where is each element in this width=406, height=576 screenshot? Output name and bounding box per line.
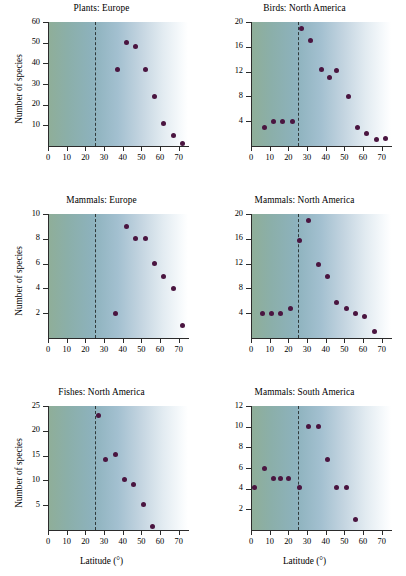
x-tick (141, 339, 142, 343)
data-point (319, 67, 324, 72)
y-tick (246, 468, 251, 469)
data-point (133, 236, 138, 241)
data-point (103, 457, 108, 462)
y-tick-label: 16 (219, 233, 243, 242)
x-tick (85, 147, 86, 151)
y-tick (43, 313, 48, 314)
x-tick (307, 147, 308, 151)
data-point (115, 67, 120, 72)
data-point (161, 274, 166, 279)
x-axis-line (48, 530, 189, 531)
data-point (124, 40, 129, 45)
y-tick (43, 239, 48, 240)
y-axis-line (251, 214, 252, 339)
data-point (327, 75, 332, 80)
x-tick (104, 339, 105, 343)
y-axis-line (48, 22, 49, 147)
chart-title: Mammals: South America (203, 387, 406, 397)
data-point (131, 482, 136, 487)
x-tick-label: 70 (168, 345, 190, 354)
y-tick-label: 2 (219, 504, 243, 513)
y-tick-label: 20 (219, 17, 243, 26)
x-tick (160, 147, 161, 151)
x-tick-label: 70 (168, 537, 190, 546)
y-tick (246, 489, 251, 490)
y-tick (246, 22, 251, 23)
x-tick (48, 147, 49, 151)
y-tick (246, 121, 251, 122)
data-point (364, 131, 369, 136)
data-point (334, 68, 339, 73)
x-axis-line (251, 146, 392, 147)
data-point (344, 306, 349, 311)
y-axis-label: Number of species (14, 34, 24, 144)
x-tick (251, 147, 252, 151)
data-point (344, 485, 349, 490)
data-point (260, 311, 265, 316)
plot-area (48, 406, 188, 530)
x-tick (363, 147, 364, 151)
x-tick (179, 339, 180, 343)
data-point (269, 311, 274, 316)
x-tick (344, 339, 345, 343)
x-tick (326, 339, 327, 343)
x-tick (382, 531, 383, 535)
data-point (334, 485, 339, 490)
chart-title: Plants: Europe (0, 3, 203, 13)
y-tick (246, 47, 251, 48)
x-tick (179, 147, 180, 151)
y-tick-label: 4 (219, 308, 243, 317)
y-axis-line (48, 406, 49, 531)
data-point (286, 476, 291, 481)
x-tick (123, 147, 124, 151)
data-point (124, 224, 129, 229)
y-axis-line (251, 22, 252, 147)
data-point (306, 424, 311, 429)
data-point (152, 94, 157, 99)
x-tick (48, 339, 49, 343)
x-tick-label: 70 (168, 153, 190, 162)
data-point (150, 524, 155, 529)
x-tick (251, 531, 252, 535)
y-tick (43, 406, 48, 407)
chart-panel: Birds: North America01020304050607048121… (203, 0, 406, 192)
y-tick-label: 6 (219, 463, 243, 472)
chart-title: Mammals: North America (203, 195, 406, 205)
data-point (288, 306, 293, 311)
data-point (113, 311, 118, 316)
data-point (143, 236, 148, 241)
y-axis-line (251, 406, 252, 531)
x-tick (48, 531, 49, 535)
y-tick (43, 125, 48, 126)
data-point (346, 94, 351, 99)
plot-area (48, 22, 188, 146)
x-tick (104, 147, 105, 151)
y-tick-label: 16 (219, 41, 243, 50)
x-tick (179, 531, 180, 535)
data-point (299, 26, 304, 31)
data-point (325, 274, 330, 279)
x-tick (104, 531, 105, 535)
plot-area (251, 214, 391, 338)
y-tick (43, 505, 48, 506)
data-point (280, 119, 285, 124)
x-tick (67, 339, 68, 343)
data-point (122, 477, 127, 482)
data-point (252, 485, 257, 490)
y-tick (43, 43, 48, 44)
data-point (297, 485, 302, 490)
y-tick (246, 313, 251, 314)
y-tick (246, 509, 251, 510)
data-point (278, 311, 283, 316)
x-tick (160, 531, 161, 535)
x-tick (123, 531, 124, 535)
data-point (316, 424, 321, 429)
data-point (374, 137, 379, 142)
x-tick (270, 147, 271, 151)
y-tick (43, 264, 48, 265)
data-point (133, 44, 138, 49)
y-tick (43, 22, 48, 23)
data-point (271, 119, 276, 124)
plot-area (251, 22, 391, 146)
chart-panel: Mammals: Europe010203040506070246810Numb… (0, 192, 203, 384)
